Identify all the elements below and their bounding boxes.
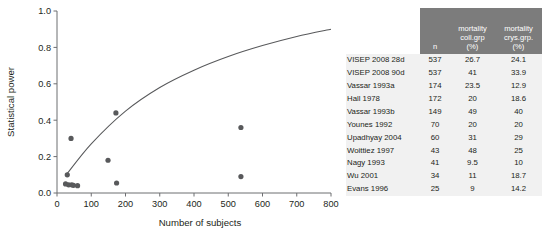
header-mortality-crys-line1: mortality <box>496 24 541 33</box>
header-mortality-crys-line2: crys.grp. <box>496 33 541 42</box>
header-mortality-coll-line1: mortality <box>451 24 494 33</box>
table-row: VISEP 2008 90d5374133.9 <box>346 67 542 80</box>
cell-crys: 18.6 <box>495 93 542 106</box>
cell-n: 34 <box>420 170 450 183</box>
cell-study: VISEP 2008 90d <box>346 67 420 80</box>
table-row: Hall 19781722018.6 <box>346 93 542 106</box>
table-body: VISEP 2008 28d53726.724.1VISEP 2008 90d5… <box>346 54 542 196</box>
data-point <box>238 125 243 130</box>
table-row: Evans 199625914.2 <box>346 183 542 196</box>
cell-coll: 9.5 <box>450 157 495 170</box>
table-header: n mortality coll.grp (%) mortality <box>346 8 542 54</box>
data-point <box>68 136 73 141</box>
y-tick-label: 1.0 <box>38 6 51 16</box>
data-point <box>75 183 80 188</box>
cell-coll: 20 <box>450 93 495 106</box>
header-n-line1 <box>421 24 449 33</box>
cell-coll: 26.7 <box>450 54 495 67</box>
x-tick-label: 0 <box>54 199 59 209</box>
cell-crys: 25 <box>495 144 542 157</box>
cell-study: Woittiez 1997 <box>346 144 420 157</box>
figure-root: 0.00.20.40.60.81.00100200300400500600700… <box>0 0 547 242</box>
cell-study: Nagy 1993 <box>346 157 420 170</box>
table-row: Vassar 1993b1494940 <box>346 106 542 119</box>
x-tick-label: 200 <box>118 199 133 209</box>
cell-n: 60 <box>420 131 450 144</box>
cell-n: 174 <box>420 80 450 93</box>
cell-coll: 49 <box>450 106 495 119</box>
y-tick-label: 0.2 <box>38 152 51 162</box>
y-axis-title: Statistical power <box>5 66 16 137</box>
cell-crys: 40 <box>495 106 542 119</box>
x-tick-label: 500 <box>221 199 236 209</box>
x-tick-label: 400 <box>186 199 201 209</box>
scatter-plot: 0.00.20.40.60.81.00100200300400500600700… <box>0 0 340 242</box>
header-study-blank <box>346 8 420 54</box>
table-row: Nagy 1993419.510 <box>346 157 542 170</box>
header-n-line2 <box>421 33 449 42</box>
cell-crys: 18.7 <box>495 170 542 183</box>
x-tick-label: 700 <box>289 199 304 209</box>
x-tick-label: 100 <box>84 199 99 209</box>
header-mortality-coll: mortality coll.grp (%) <box>450 8 495 54</box>
cell-crys: 10 <box>495 157 542 170</box>
data-point <box>105 158 110 163</box>
table-row: Wu 2001341118.7 <box>346 170 542 183</box>
cell-n: 172 <box>420 93 450 106</box>
chart-svg: 0.00.20.40.60.81.00100200300400500600700… <box>0 0 340 242</box>
y-tick-label: 0.4 <box>38 116 51 126</box>
table-row: Younes 1992702020 <box>346 118 542 131</box>
header-mortality-coll-line3: (%) <box>451 42 494 51</box>
cell-crys: 33.9 <box>495 67 542 80</box>
header-n-label: n <box>421 42 449 51</box>
cell-n: 25 <box>420 183 450 196</box>
cell-coll: 20 <box>450 118 495 131</box>
cell-n: 43 <box>420 144 450 157</box>
cell-crys: 14.2 <box>495 183 542 196</box>
header-mortality-coll-line2: coll.grp <box>451 33 494 42</box>
cell-crys: 29 <box>495 131 542 144</box>
study-table-element: n mortality coll.grp (%) mortality <box>346 8 542 196</box>
cell-study: Vassar 1993b <box>346 106 420 119</box>
cell-crys: 20 <box>495 118 542 131</box>
cell-study: Hall 1978 <box>346 93 420 106</box>
header-n: n <box>420 8 450 54</box>
data-point <box>65 172 70 177</box>
y-tick-label: 0.8 <box>38 43 51 53</box>
x-tick-label: 300 <box>152 199 167 209</box>
cell-n: 70 <box>420 118 450 131</box>
study-table: n mortality coll.grp (%) mortality <box>346 8 542 196</box>
cell-study: Younes 1992 <box>346 118 420 131</box>
fitted-curve <box>66 29 331 176</box>
y-tick-label: 0.6 <box>38 79 51 89</box>
cell-coll: 41 <box>450 67 495 80</box>
data-point <box>238 174 243 179</box>
cell-n: 537 <box>420 67 450 80</box>
header-mortality-crys-line3: (%) <box>496 42 541 51</box>
cell-n: 41 <box>420 157 450 170</box>
cell-coll: 11 <box>450 170 495 183</box>
y-tick-label: 0.0 <box>38 188 51 198</box>
header-mortality-crys: mortality crys.grp. (%) <box>495 8 542 54</box>
cell-crys: 12.9 <box>495 80 542 93</box>
cell-crys: 24.1 <box>495 54 542 67</box>
data-point <box>114 180 119 185</box>
table-row: Upadhyay 2004603129 <box>346 131 542 144</box>
table-row: Woittiez 1997434825 <box>346 144 542 157</box>
x-axis-title: Number of subjects <box>159 217 242 228</box>
cell-coll: 31 <box>450 131 495 144</box>
cell-n: 537 <box>420 54 450 67</box>
cell-coll: 48 <box>450 144 495 157</box>
cell-study: Wu 2001 <box>346 170 420 183</box>
table-row: VISEP 2008 28d53726.724.1 <box>346 54 542 67</box>
x-tick-label: 600 <box>255 199 270 209</box>
cell-study: VISEP 2008 28d <box>346 54 420 67</box>
table-row: Vassar 1993a17423.512.9 <box>346 80 542 93</box>
table-header-row: n mortality coll.grp (%) mortality <box>346 8 542 54</box>
cell-study: Evans 1996 <box>346 183 420 196</box>
cell-coll: 9 <box>450 183 495 196</box>
cell-study: Upadhyay 2004 <box>346 131 420 144</box>
cell-study: Vassar 1993a <box>346 80 420 93</box>
cell-n: 149 <box>420 106 450 119</box>
data-point <box>113 110 118 115</box>
